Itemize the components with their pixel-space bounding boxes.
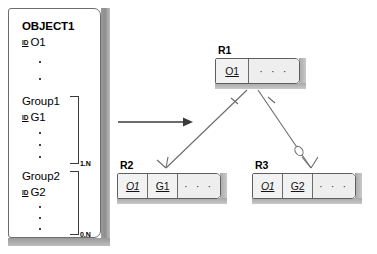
relation-r1: O1 · · ·	[215, 58, 306, 89]
group1-cardinality-bracket	[70, 96, 79, 164]
relation-r2-cell-1: G1	[148, 174, 177, 198]
object-box-bottom-shadow	[8, 238, 110, 246]
group1-id-row: IDG1	[22, 112, 45, 124]
relation-r1-title: R1	[218, 44, 231, 56]
ellipsis-dot	[39, 156, 41, 158]
ellipsis-dot	[39, 132, 41, 134]
group2-id-row: IDG2	[22, 187, 45, 199]
relation-r1-cell-1: · · ·	[249, 59, 299, 83]
object-box-side-shadow	[101, 8, 110, 246]
ellipsis-dot	[39, 144, 41, 146]
group2-id-tag: ID	[22, 189, 29, 196]
relation-r1-cell-0: O1	[216, 59, 249, 83]
optional-circle-icon	[293, 145, 305, 157]
ellipsis-dot	[39, 206, 41, 208]
relation-r3-cell-1: G2	[283, 174, 312, 198]
relation-r3-cell-2: · · ·	[313, 174, 355, 198]
ellipsis-dot	[39, 61, 41, 63]
relation-r3: O1 G2 · · ·	[252, 173, 362, 204]
object-id-tag: ID	[22, 39, 29, 46]
object-box: OBJECT1 IDO1 Group1 IDG1 1.N Group2 IDG2	[8, 8, 110, 246]
relation-r3-front: O1 G2 · · ·	[252, 173, 356, 199]
object-id-row: IDO1	[22, 37, 45, 49]
group1-id-value: G1	[31, 111, 46, 123]
ellipsis-dot	[39, 217, 41, 219]
relation-r3-title: R3	[255, 159, 268, 171]
group1-cardinality-label: 1.N	[80, 160, 91, 167]
group2-cardinality-label: 0.N	[80, 231, 91, 238]
object-id-value: O1	[31, 36, 46, 48]
maps-to-arrow	[118, 118, 193, 127]
relation-r2: O1 G1 · · ·	[117, 173, 227, 204]
object-title: OBJECT1	[22, 21, 74, 33]
relation-r2-cell-0: O1	[118, 174, 148, 198]
object-box-content: OBJECT1 IDO1 Group1 IDG1 1.N Group2 IDG2	[8, 8, 101, 238]
relation-r2-cell-2: · · ·	[178, 174, 220, 198]
group2-cardinality-bracket	[70, 171, 79, 235]
connector-r1-r2	[157, 90, 247, 168]
relation-r2-front: O1 G1 · · ·	[117, 173, 221, 199]
relation-r1-front: O1 · · ·	[215, 58, 300, 84]
ellipsis-dot	[39, 228, 41, 230]
group2-name: Group2	[22, 171, 60, 183]
connector-r1-r3	[258, 90, 318, 168]
ellipsis-dot	[39, 78, 41, 80]
diagram-canvas: OBJECT1 IDO1 Group1 IDG1 1.N Group2 IDG2	[0, 0, 377, 254]
group2-id-value: G2	[31, 186, 46, 198]
group1-name: Group1	[22, 96, 60, 108]
group1-id-tag: ID	[22, 114, 29, 121]
relation-r3-cell-0: O1	[253, 174, 283, 198]
relation-r2-title: R2	[120, 159, 133, 171]
